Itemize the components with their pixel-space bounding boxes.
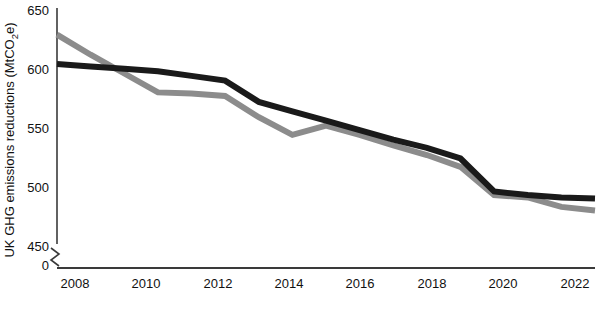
- x-tick-2020: 2020: [489, 276, 518, 291]
- x-tick-2022: 2022: [561, 276, 590, 291]
- x-tick-2014: 2014: [275, 276, 304, 291]
- y-tick-0: 0: [42, 258, 49, 273]
- y-tick-550: 550: [27, 121, 49, 136]
- y-tick-650: 650: [27, 3, 49, 18]
- y-axis-title-tail: e): [2, 22, 17, 34]
- line-chart: 650 600 550 500 450 0 2008 2010 2012 201…: [0, 0, 597, 310]
- chart-background: [0, 0, 597, 310]
- y-tick-600: 600: [27, 62, 49, 77]
- x-tick-2008: 2008: [61, 276, 90, 291]
- y-tick-500: 500: [27, 180, 49, 195]
- y-axis-title-main: UK GHG emissions reductions (MtCO: [2, 39, 17, 257]
- chart-container: 650 600 550 500 450 0 2008 2010 2012 201…: [0, 0, 597, 310]
- x-tick-2016: 2016: [346, 276, 375, 291]
- x-tick-2018: 2018: [418, 276, 447, 291]
- x-tick-2010: 2010: [132, 276, 161, 291]
- x-tick-2012: 2012: [204, 276, 233, 291]
- y-tick-450: 450: [27, 239, 49, 254]
